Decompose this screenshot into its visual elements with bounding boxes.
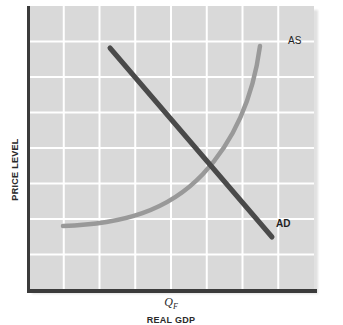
x-axis-variable-subscript: F xyxy=(173,302,178,311)
y-axis-title: PRICE LEVEL xyxy=(10,115,21,225)
plot-frame xyxy=(28,6,314,290)
x-axis-titles: QF REAL GDP xyxy=(28,295,314,325)
x-axis-variable-symbol: Q xyxy=(164,295,173,309)
ad-curve-label: AD xyxy=(276,218,290,229)
x-axis-line xyxy=(27,289,317,293)
as-ad-chart: PRICE LEVEL QF REAL GDP AS AD xyxy=(0,0,343,325)
x-axis-name: REAL GDP xyxy=(28,314,314,325)
x-axis-variable: QF xyxy=(28,295,314,314)
as-curve xyxy=(63,46,260,226)
as-curve-label: AS xyxy=(288,35,301,46)
y-axis-line xyxy=(27,6,30,293)
ad-curve xyxy=(110,48,272,237)
curves xyxy=(28,6,314,290)
